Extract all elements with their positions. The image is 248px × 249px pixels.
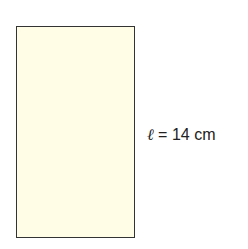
length-value: 14	[172, 126, 190, 143]
length-label: ℓ = 14 cm	[147, 125, 215, 144]
rectangle-shape	[16, 26, 135, 238]
equals-sign: =	[154, 126, 172, 143]
length-variable: ℓ	[147, 125, 154, 144]
length-unit: cm	[190, 126, 216, 143]
